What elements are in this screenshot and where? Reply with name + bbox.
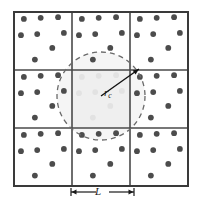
box-length-label: L — [95, 185, 101, 197]
diagram-canvas — [0, 0, 200, 206]
box-length-scale-bar — [71, 188, 134, 196]
periodic-boundary-diagram: rc L — [0, 0, 200, 206]
cutoff-radius-subscript: c — [108, 91, 111, 100]
cutoff-radius-label: rc — [104, 86, 112, 100]
